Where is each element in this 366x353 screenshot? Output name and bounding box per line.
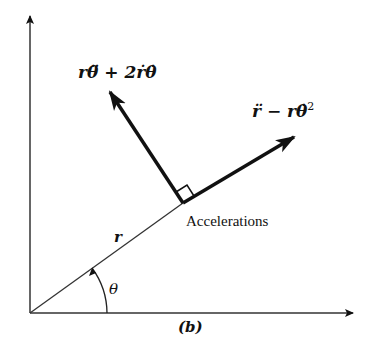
transverse-acceleration-arrow	[110, 92, 183, 203]
accelerations-label: Accelerations	[186, 213, 268, 230]
radial-acceleration-main: r̈ − rθ̇	[252, 101, 307, 121]
radial-acceleration-arrow	[183, 137, 294, 203]
diagram-canvas	[0, 0, 366, 353]
figure-caption: (b)	[178, 318, 203, 336]
angle-label: θ	[109, 280, 118, 298]
radius-line	[30, 203, 183, 313]
transverse-acceleration-label: rθ̈ + 2ṙθ̇	[78, 62, 157, 82]
radial-acceleration-exponent: 2	[307, 100, 314, 113]
radial-acceleration-label: r̈ − rθ̇2	[252, 100, 314, 121]
radius-label: r	[114, 228, 122, 246]
angle-arc	[92, 268, 107, 313]
